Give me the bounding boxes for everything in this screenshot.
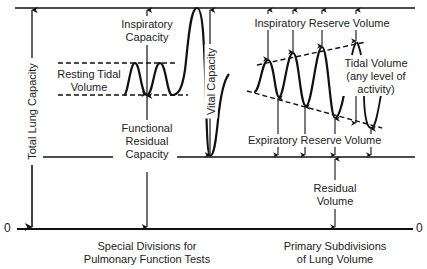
expiratory-reserve-volume-label: Expiratory Reserve Volume bbox=[248, 134, 378, 147]
frc-line2: Residual bbox=[117, 135, 177, 148]
tidal-volume-label: Tidal Volume (any level of activity) bbox=[336, 57, 416, 96]
frc-line3: Capacity bbox=[117, 148, 177, 161]
resting-tidal-line1: Resting Tidal bbox=[56, 68, 122, 81]
tidal-line2: (any level of bbox=[336, 70, 416, 83]
inspiratory-capacity-line2: Capacity bbox=[117, 31, 177, 44]
left-caption-line1: Special Divisions for bbox=[72, 240, 222, 253]
rv-line1: Residual bbox=[305, 182, 365, 195]
zero-label-left: 0 bbox=[4, 222, 11, 235]
inspiratory-capacity-label: Inspiratory Capacity bbox=[117, 18, 177, 44]
residual-volume-label: Residual Volume bbox=[305, 182, 365, 208]
zero-label-right: 0 bbox=[416, 222, 423, 235]
resting-tidal-volume-label: Resting Tidal Volume bbox=[56, 68, 122, 94]
right-panel-caption: Primary Subdivisions of Lung Volume bbox=[275, 240, 395, 266]
frc-line1: Functional bbox=[117, 122, 177, 135]
vital-capacity-label: Vital Capacity bbox=[205, 45, 218, 119]
left-caption-line2: Pulmonary Function Tests bbox=[72, 253, 222, 266]
total-lung-capacity-label: Total Lung Capacity bbox=[26, 58, 39, 165]
right-caption-line2: of Lung Volume bbox=[275, 253, 395, 266]
right-caption-line1: Primary Subdivisions bbox=[275, 240, 395, 253]
rv-line2: Volume bbox=[305, 195, 365, 208]
inspiratory-capacity-line1: Inspiratory bbox=[117, 18, 177, 31]
functional-residual-capacity-label: Functional Residual Capacity bbox=[117, 122, 177, 161]
tidal-line1: Tidal Volume bbox=[336, 57, 416, 70]
resting-tidal-line2: Volume bbox=[56, 81, 122, 94]
tidal-line3: activity) bbox=[336, 83, 416, 96]
inspiratory-reserve-volume-label: Inspiratory Reserve Volume bbox=[247, 17, 397, 30]
left-panel-caption: Special Divisions for Pulmonary Function… bbox=[72, 240, 222, 266]
